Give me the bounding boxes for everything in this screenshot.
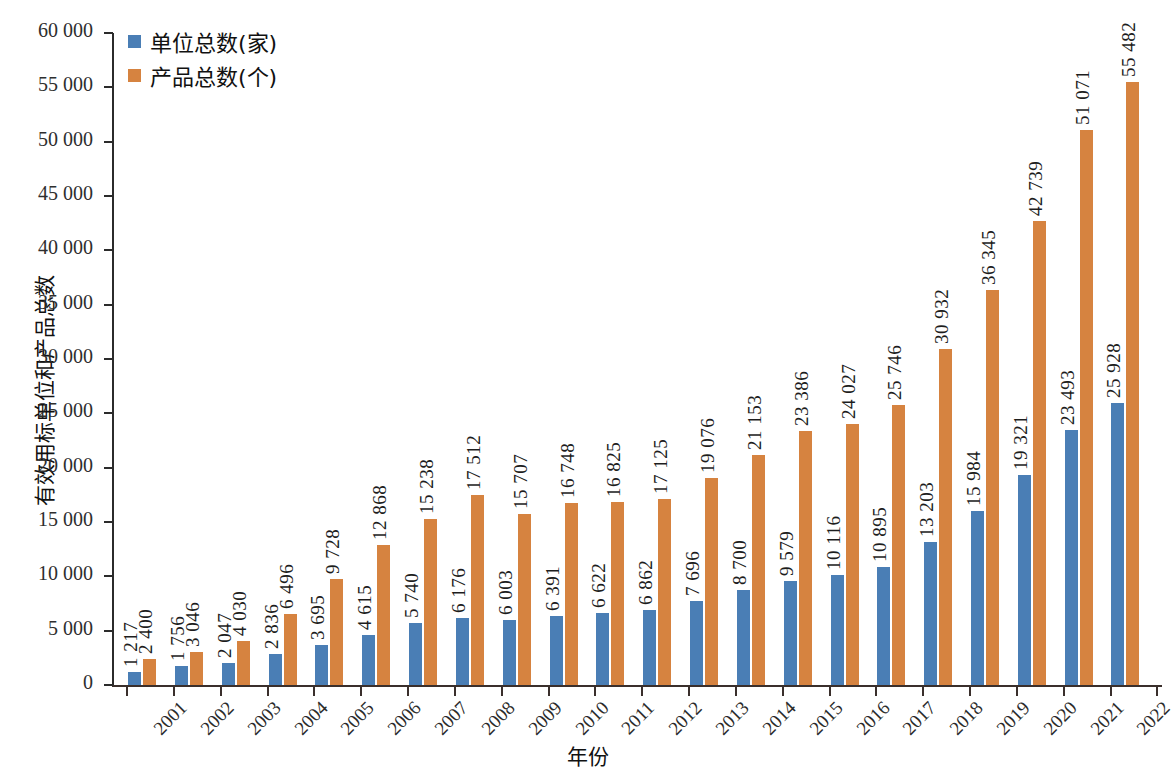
bar[interactable] [596, 613, 609, 685]
x-axis-tick [360, 687, 362, 696]
bar-value-label: 25 746 [884, 345, 906, 400]
bar-value-label: 8 700 [729, 540, 751, 585]
x-axis-tick [782, 687, 784, 696]
bar[interactable] [222, 663, 235, 685]
y-axis-tick-label: 5 000 [3, 617, 93, 640]
plot-area: 1 2172 4001 7563 0462 0474 0302 8366 496… [114, 33, 1162, 685]
bar[interactable] [658, 499, 671, 685]
bar[interactable] [690, 601, 703, 685]
bar-chart: 有效用标单位和产品总数 05 00010 00015 00020 00025 0… [0, 0, 1175, 774]
bar[interactable] [128, 672, 141, 685]
bar[interactable] [924, 542, 937, 685]
x-axis-tick-label: 2005 [337, 697, 379, 739]
bar[interactable] [503, 620, 516, 685]
bar[interactable] [752, 455, 765, 685]
bar-value-label: 6 622 [588, 563, 610, 608]
bar[interactable] [643, 610, 656, 685]
bar[interactable] [471, 495, 484, 685]
bar-value-label: 6 862 [635, 560, 657, 605]
bar[interactable] [377, 545, 390, 685]
bar-value-label: 3 695 [307, 595, 329, 640]
x-axis-tick [220, 687, 222, 696]
bar[interactable] [456, 618, 469, 685]
bar-value-label: 36 345 [978, 230, 1000, 285]
bar[interactable] [1033, 221, 1046, 685]
bar[interactable] [518, 514, 531, 685]
x-axis-tick-label: 2022 [1133, 697, 1175, 739]
bar-value-label: 51 071 [1072, 70, 1094, 125]
bar-value-label: 19 321 [1010, 415, 1032, 470]
x-axis-tick [875, 687, 877, 696]
bar[interactable] [409, 623, 422, 685]
bar-value-label: 6 003 [495, 570, 517, 615]
x-axis-tick-label: 2004 [290, 697, 332, 739]
x-axis-tick [313, 687, 315, 696]
x-axis-tick-label: 2019 [992, 697, 1034, 739]
bar[interactable] [831, 575, 844, 685]
bar[interactable] [550, 616, 563, 685]
x-axis-tick-label: 2010 [571, 697, 613, 739]
bar[interactable] [939, 349, 952, 685]
x-axis-tick [922, 687, 924, 696]
bar[interactable] [737, 590, 750, 685]
x-axis-tick-label: 2021 [1086, 697, 1128, 739]
bar[interactable] [190, 652, 203, 685]
bar[interactable] [315, 645, 328, 685]
y-axis-tick-label: 50 000 [3, 128, 93, 151]
bar[interactable] [705, 478, 718, 685]
y-axis-tick [104, 249, 113, 251]
bar[interactable] [565, 503, 578, 685]
bar[interactable] [1111, 403, 1124, 685]
bar[interactable] [1018, 475, 1031, 685]
bar-value-label: 12 868 [369, 485, 391, 540]
bar[interactable] [799, 431, 812, 685]
bar[interactable] [1126, 82, 1139, 685]
bar[interactable] [284, 614, 297, 685]
x-axis-tick-label: 2014 [758, 697, 800, 739]
y-axis-tick [104, 304, 113, 306]
bar[interactable] [237, 641, 250, 685]
x-axis-tick-label: 2011 [617, 697, 659, 739]
x-axis-tick [407, 687, 409, 696]
bar[interactable] [175, 666, 188, 685]
bar-value-label: 23 386 [791, 371, 813, 426]
y-axis-tick [104, 358, 113, 360]
bar-value-label: 4 030 [229, 591, 251, 636]
x-axis-tick-label: 2012 [664, 697, 706, 739]
bar[interactable] [892, 405, 905, 685]
bar-value-label: 42 739 [1025, 160, 1047, 215]
bar[interactable] [424, 519, 437, 685]
y-axis-tick-label: 25 000 [3, 399, 93, 422]
y-axis-tick-label: 55 000 [3, 73, 93, 96]
bar-value-label: 9 579 [776, 531, 798, 576]
bar[interactable] [846, 424, 859, 685]
y-axis-tick [104, 86, 113, 88]
bar[interactable] [986, 290, 999, 685]
bar[interactable] [362, 635, 375, 685]
bar-value-label: 24 027 [838, 364, 860, 419]
bar[interactable] [1080, 130, 1093, 685]
bar-value-label: 15 707 [510, 454, 532, 509]
bar-value-label: 9 728 [322, 529, 344, 574]
bar-value-label: 10 116 [823, 516, 845, 571]
bar[interactable] [330, 579, 343, 685]
x-axis-tick-label: 2006 [383, 697, 425, 739]
bar[interactable] [143, 659, 156, 685]
bar-value-label: 15 238 [416, 459, 438, 514]
bar[interactable] [269, 654, 282, 685]
x-axis-tick [501, 687, 503, 696]
bar-value-label: 10 895 [869, 506, 891, 561]
x-axis-tick [454, 687, 456, 696]
y-axis-tick [104, 467, 113, 469]
bar-value-label: 6 496 [276, 564, 298, 609]
bar[interactable] [611, 502, 624, 685]
bar[interactable] [971, 511, 984, 685]
bar[interactable] [784, 581, 797, 685]
bar[interactable] [1065, 430, 1078, 685]
bar[interactable] [877, 567, 890, 685]
y-axis-tick-label: 0 [3, 671, 93, 694]
x-axis-tick-label: 2007 [430, 697, 472, 739]
bar-value-label: 2 400 [135, 609, 157, 654]
x-axis-tick-label: 2016 [852, 697, 894, 739]
y-axis-tick [104, 684, 113, 686]
